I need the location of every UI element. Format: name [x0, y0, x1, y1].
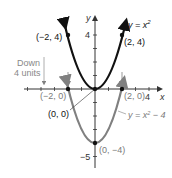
y-tick-label-4: 4: [85, 30, 90, 40]
point-0-0: [93, 87, 97, 91]
y-axis-label: y: [85, 13, 91, 23]
y-tick-label-neg5: −5: [80, 152, 90, 162]
x-tick-label-4: 4: [145, 92, 150, 102]
gray-eq-leader-line: [118, 111, 126, 114]
x-axis-label: x: [159, 92, 165, 102]
label-point-neg2-0: (−2, 0): [40, 91, 66, 101]
label-point-neg2-4: (−2, 4): [36, 32, 62, 42]
graph: y x 4 −5 4 y = x2 y = x2 − 4 (−2, 4) (2,…: [0, 0, 172, 178]
origin-leader-line: [70, 89, 95, 110]
equation-y-equals-x-squared-minus-4: y = x2 − 4: [127, 110, 166, 121]
label-point-0-neg4: (0, −4): [99, 145, 125, 155]
label-point-2-0: (2, 0): [124, 91, 145, 101]
label-point-0-0: (0, 0): [48, 109, 69, 119]
shift-label-line1: Down: [17, 58, 40, 68]
point-neg2-0: [66, 87, 70, 91]
equation-y-equals-x-squared: y = x2: [127, 19, 151, 30]
point-0-neg4: [93, 141, 97, 145]
point-neg2-4: [66, 33, 70, 37]
label-point-2-4: (2, 4): [124, 37, 145, 47]
shift-label-line2: 4 units: [14, 68, 41, 78]
